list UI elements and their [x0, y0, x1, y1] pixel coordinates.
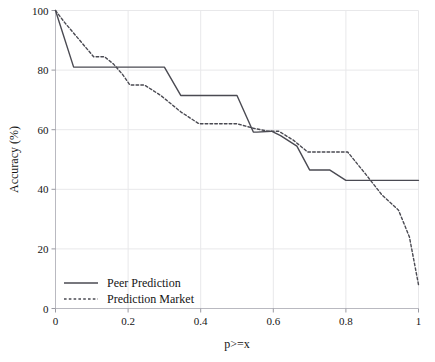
x-axis-title: p>=x	[224, 337, 250, 351]
y-tick-label: 0	[43, 303, 49, 315]
legend-label: Peer Prediction	[107, 276, 181, 290]
y-axis-title: Accuracy (%)	[7, 126, 21, 193]
y-tick-label: 20	[38, 243, 50, 255]
x-tick-label: 0.2	[121, 315, 135, 327]
x-tick-label: 0.4	[194, 315, 208, 327]
chart-figure: 00.20.40.60.81 020406080100 p>=x Accurac…	[0, 0, 435, 362]
x-tick-label: 0.8	[339, 315, 353, 327]
legend-label: Prediction Market	[107, 292, 195, 306]
y-tick-label: 100	[32, 5, 49, 17]
y-tick-label: 60	[38, 124, 50, 136]
x-tick-label: 1	[416, 315, 422, 327]
y-tick-label: 40	[38, 183, 50, 195]
accuracy-vs-threshold-chart: 00.20.40.60.81 020406080100 p>=x Accurac…	[0, 0, 435, 362]
y-tick-label: 80	[38, 64, 50, 76]
x-tick-label: 0	[53, 315, 59, 327]
x-tick-label: 0.6	[266, 315, 280, 327]
